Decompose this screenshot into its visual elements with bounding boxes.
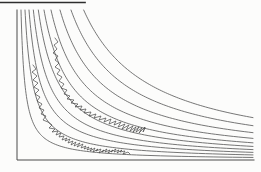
scanned-figure-page: [0, 0, 261, 172]
indifference-curves-figure: [0, 0, 261, 172]
figure-background: [0, 0, 261, 172]
